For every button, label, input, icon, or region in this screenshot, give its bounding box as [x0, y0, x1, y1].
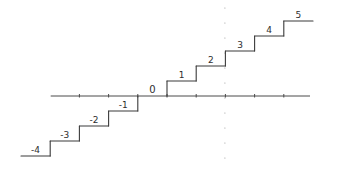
step-label: 0 [149, 84, 155, 95]
dotted-vertical-guide [224, 7, 225, 158]
step-label: 1 [179, 70, 185, 80]
step-label: 3 [237, 40, 243, 50]
guide-dot [224, 112, 225, 113]
step-label: -3 [60, 130, 69, 140]
guide-dot [224, 7, 225, 8]
step-label: 5 [296, 10, 302, 20]
guide-dot [224, 37, 225, 38]
step-label: -1 [119, 100, 128, 110]
guide-dot [224, 82, 225, 83]
guide-dot [224, 97, 225, 98]
guide-dot [224, 142, 225, 143]
step-label: -2 [90, 115, 99, 125]
step-label: -4 [31, 145, 40, 155]
step-function-diagram: -4-3-2-1012345 [0, 0, 337, 171]
guide-dot [224, 127, 225, 128]
guide-dot [224, 22, 225, 23]
step-label: 2 [208, 55, 214, 65]
guide-dot [224, 157, 225, 158]
guide-dot [224, 67, 225, 68]
step-label: 4 [266, 25, 272, 35]
step-labels: -4-3-2-1012345 [31, 10, 301, 155]
